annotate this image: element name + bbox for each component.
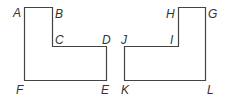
left-l-shape bbox=[25, 8, 107, 81]
vertex-label-a: A bbox=[12, 6, 21, 20]
vertex-label-b: B bbox=[55, 7, 63, 21]
vertex-label-g: G bbox=[208, 7, 217, 21]
vertex-label-c: C bbox=[55, 33, 64, 47]
right-l-shape bbox=[125, 8, 206, 81]
vertex-label-j: J bbox=[120, 33, 128, 47]
vertex-label-k: K bbox=[121, 83, 130, 97]
vertex-label-f: F bbox=[16, 83, 24, 97]
vertex-label-l: L bbox=[207, 83, 214, 97]
vertex-label-h: H bbox=[166, 7, 175, 21]
vertex-label-i: I bbox=[170, 33, 174, 47]
vertex-label-e: E bbox=[101, 83, 110, 97]
vertex-label-d: D bbox=[102, 33, 111, 47]
diagram-canvas: A B C D E F G H I J K L bbox=[0, 0, 231, 103]
